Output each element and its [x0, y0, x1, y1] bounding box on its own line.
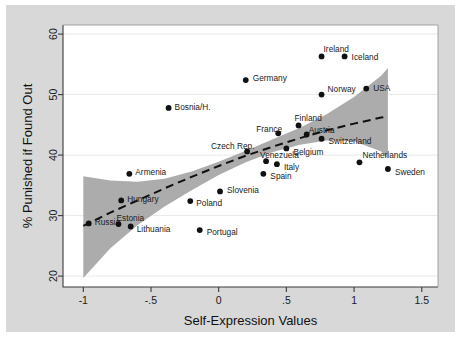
point-label: Ireland — [324, 44, 350, 54]
point-marker — [363, 86, 369, 92]
chart-canvas: RussiaEstoniaLithuaniaHungaryArmeniaBosn… — [0, 0, 461, 348]
point-marker — [319, 92, 325, 98]
point-label: Norway — [328, 84, 357, 94]
x-tick-label: 0 — [216, 294, 222, 306]
y-axis-ticks: 2030405060 — [47, 28, 63, 282]
point-label: Belgium — [293, 147, 323, 157]
data-point: Slovenia — [217, 185, 259, 195]
point-label: France — [256, 124, 282, 134]
point-marker — [342, 54, 348, 60]
point-label: Austria — [309, 125, 335, 135]
data-point: Spain — [260, 171, 292, 181]
x-tick-label: -.5 — [145, 294, 157, 306]
point-marker — [187, 198, 193, 204]
x-tick-label: 1.5 — [414, 294, 429, 306]
point-label: Lithuania — [137, 224, 171, 234]
point-label: Poland — [196, 198, 222, 208]
y-tick-label: 60 — [47, 28, 59, 40]
point-label: Czech Rep. — [211, 141, 254, 151]
data-point: USA — [363, 83, 390, 93]
point-label: Armenia — [135, 167, 166, 177]
data-point: Norway — [319, 84, 357, 98]
y-tick-label: 30 — [47, 210, 59, 222]
point-marker — [243, 77, 249, 83]
point-marker — [385, 166, 391, 172]
data-point: France — [256, 124, 282, 136]
point-marker — [283, 146, 289, 152]
point-label: Italy — [284, 162, 300, 172]
point-label: Slovenia — [227, 185, 259, 195]
y-axis-title: % Punished if Found Out — [20, 83, 35, 228]
point-label: Iceland — [352, 52, 379, 62]
point-marker — [126, 171, 132, 177]
point-label: Switzerland — [329, 136, 372, 146]
data-point: Germany — [243, 73, 288, 83]
x-tick-label: 1 — [351, 294, 357, 306]
point-marker — [86, 221, 92, 227]
data-point: Sweden — [385, 166, 425, 177]
y-tick-label: 40 — [47, 149, 59, 161]
point-label: Portugal — [207, 227, 238, 237]
point-label: Hungary — [127, 194, 159, 204]
x-tick-label: .5 — [282, 294, 291, 306]
point-label: Spain — [270, 171, 292, 181]
data-point: Poland — [187, 198, 222, 208]
data-point: Czech Rep. — [211, 141, 254, 154]
data-point: Netherlands — [357, 150, 408, 165]
y-tick-label: 50 — [47, 89, 59, 101]
y-tick-label: 20 — [47, 270, 59, 282]
point-marker — [166, 105, 172, 111]
point-label: Sweden — [395, 167, 425, 177]
scatter-plot-figure: RussiaEstoniaLithuaniaHungaryArmeniaBosn… — [0, 0, 461, 348]
point-label: Netherlands — [362, 150, 407, 160]
x-tick-label: -1 — [79, 294, 88, 306]
data-point: Armenia — [126, 167, 166, 177]
point-marker — [260, 171, 266, 177]
point-marker — [274, 161, 280, 167]
x-axis-ticks: -1-.50.511.5 — [79, 287, 430, 306]
point-marker — [118, 198, 124, 204]
point-label: Finland — [295, 113, 323, 123]
data-point: Bosnia/H. — [166, 102, 211, 112]
data-point: Portugal — [197, 227, 238, 237]
x-axis-title: Self-Expression Values — [184, 313, 318, 328]
point-marker — [128, 224, 134, 230]
point-label: Bosnia/H. — [175, 102, 211, 112]
point-marker — [197, 227, 203, 233]
point-label: Germany — [253, 73, 288, 83]
point-marker — [217, 189, 223, 195]
point-marker — [319, 136, 325, 142]
point-label: USA — [373, 83, 391, 93]
point-label: Estonia — [117, 213, 145, 223]
